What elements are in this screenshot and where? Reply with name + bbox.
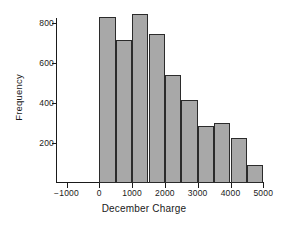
y-tick-label: 200 — [39, 139, 54, 148]
histogram-bar — [116, 40, 132, 183]
y-tick-label: 600 — [39, 59, 54, 68]
histogram-bar — [214, 123, 230, 183]
histogram-bar — [181, 100, 197, 183]
histogram-bar — [231, 138, 247, 183]
histogram-bar — [149, 34, 165, 183]
y-tick-label: 800 — [39, 19, 54, 28]
histogram-figure: 200400600800 −1000010002000300040005000 … — [0, 0, 288, 230]
histogram-bar — [247, 165, 263, 183]
histogram-bar — [198, 126, 214, 183]
histogram-bar — [99, 17, 115, 183]
histogram-bar — [132, 14, 148, 183]
y-axis-line — [56, 18, 57, 183]
x-axis-title: December Charge — [0, 203, 288, 214]
x-tick-label: 5000 — [243, 189, 283, 198]
y-tick-label: 400 — [39, 99, 54, 108]
histogram-bar — [165, 75, 181, 183]
plot-area: 200400600800 −1000010002000300040005000 — [0, 0, 288, 230]
y-axis-title: Frequency — [13, 48, 24, 148]
